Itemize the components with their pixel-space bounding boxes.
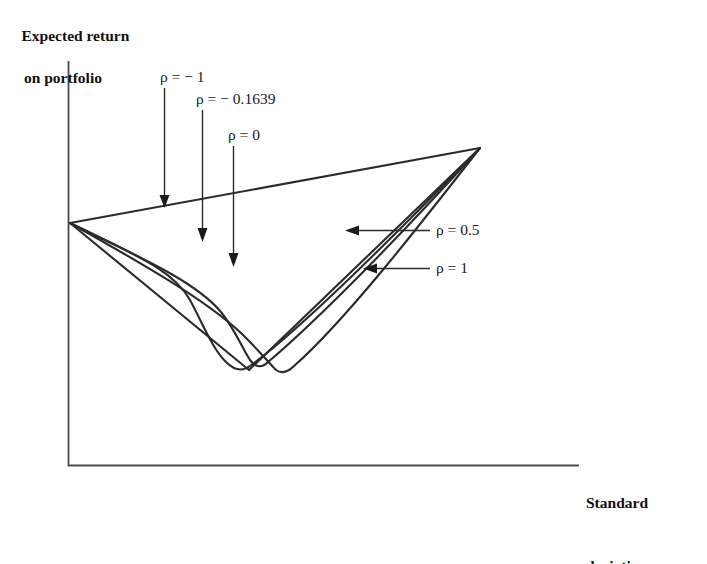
- rho-label-negative-one: ρ = − 1: [160, 68, 205, 86]
- arrow-rho-neg-1: [160, 88, 170, 208]
- y-axis-title-line-1: Expected return: [22, 27, 130, 44]
- x-axis-title-line-2: deviation: [586, 555, 671, 564]
- frontier-curve-rho-neg-1: [70, 223, 249, 370]
- axes-group: [69, 62, 579, 466]
- frontier-curves-group: [70, 148, 480, 372]
- y-axis-title: Expected return on portfolio: [6, 4, 129, 130]
- axis-lines: [69, 62, 579, 466]
- frontier-curve-rho-0-5: [70, 148, 480, 372]
- rho-label-zero: ρ = 0: [228, 126, 260, 144]
- x-axis-title-line-1: Standard: [586, 492, 671, 513]
- rho-label-point-five: ρ = 0.5: [436, 221, 480, 239]
- arrow-rho-neg-0-1639: [198, 110, 208, 242]
- arrow-rho-0: [229, 146, 239, 267]
- rho-label-one: ρ = 1: [436, 259, 468, 277]
- rho-label-negative-point-1639: ρ = − 0.1639: [196, 90, 275, 108]
- arrow-rho-1: [363, 264, 430, 274]
- y-axis-title-line-2: on portfolio: [6, 67, 129, 88]
- portfolio-frontier-figure: Expected return on portfolio Standard de…: [0, 0, 707, 564]
- x-axis-title: Standard deviation of portfolio's return: [586, 450, 671, 564]
